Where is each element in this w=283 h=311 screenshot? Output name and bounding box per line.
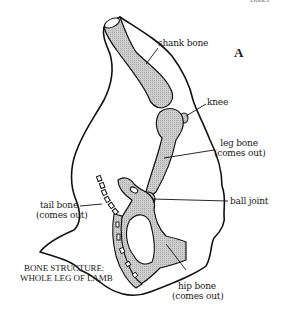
hip-bone-text: hip bone bbox=[172, 281, 222, 291]
label-ball-joint: ball joint bbox=[230, 196, 268, 206]
leg-bone bbox=[146, 109, 183, 195]
tail-bone-text: tail bone bbox=[36, 200, 82, 210]
diagram-caption: BONE STRUCTURE: WHOLE LEG OF LAMB bbox=[20, 263, 113, 283]
label-shank-bone: shank bone bbox=[158, 38, 208, 48]
hip-bone-note: (comes out) bbox=[172, 291, 222, 301]
knee-leader bbox=[186, 104, 206, 116]
ball-joint-leader bbox=[152, 199, 228, 201]
tail-bone bbox=[96, 175, 118, 214]
caption-line-2: WHOLE LEG OF LAMB bbox=[20, 273, 113, 283]
bone-structure-diagram: Bones bbox=[0, 0, 283, 311]
shank-bone bbox=[104, 17, 173, 108]
label-hip-bone: hip bone (comes out) bbox=[172, 281, 222, 301]
label-leg-bone: leg bone (comes out) bbox=[214, 138, 264, 158]
caption-line-1: BONE STRUCTURE: bbox=[20, 263, 113, 273]
figure-letter: A bbox=[234, 48, 243, 58]
tail-bone-note: (comes out) bbox=[36, 210, 82, 220]
tail-bone-leader bbox=[80, 204, 102, 206]
label-tail-bone: tail bone (comes out) bbox=[36, 200, 82, 220]
leg-bone-text: leg bone bbox=[214, 138, 264, 148]
shank-bone-leader bbox=[146, 48, 158, 64]
label-knee: knee bbox=[207, 97, 228, 107]
leg-bone-note: (comes out) bbox=[214, 148, 264, 158]
